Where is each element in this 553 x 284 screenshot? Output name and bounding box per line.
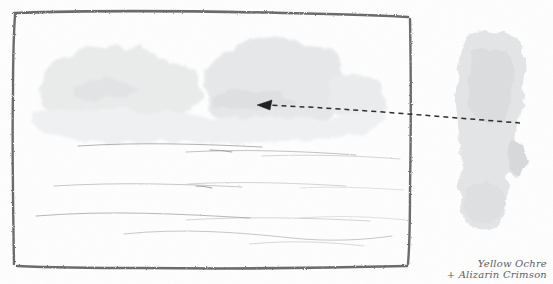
sketch-page: Yellow Ochre + Alizarin Crimson: [0, 0, 553, 284]
caption-line-alizarin-crimson: + Alizarin Crimson: [447, 269, 547, 280]
paint-mixture-caption: Yellow Ochre + Alizarin Crimson: [447, 258, 547, 280]
paper-grain-overlay: [0, 0, 553, 284]
caption-line-yellow-ochre: Yellow Ochre: [447, 258, 547, 269]
artboard-canvas: [0, 0, 553, 284]
